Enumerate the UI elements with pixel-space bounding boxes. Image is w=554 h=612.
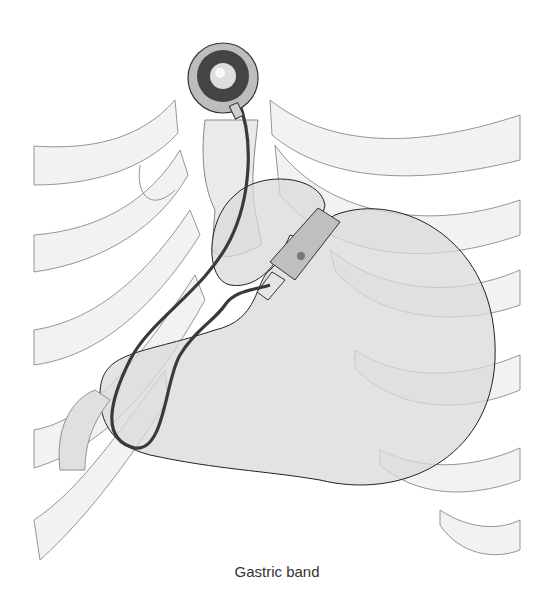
access-port <box>188 43 258 119</box>
gastric-band-illustration <box>0 0 554 612</box>
ribcage-left <box>34 100 205 560</box>
figure-caption: Gastric band <box>0 563 554 580</box>
